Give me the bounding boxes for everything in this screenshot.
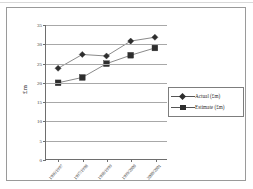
x-tick-label: 2000/2001 [146,164,162,181]
y-tick-mark [43,83,46,84]
x-tick-label: 1998/1999 [97,164,113,181]
x-tick-mark [83,159,84,162]
x-tick-mark [131,159,132,162]
data-point-marker-diamond [152,34,158,40]
y-tick-mark [43,64,46,65]
chart-page: £m 051015202530351996/19971997/19981998/… [0,0,253,189]
legend-label-estimate: Estimate (£m) [195,105,225,110]
figure-frame: £m 051015202530351996/19971997/19981998/… [6,7,246,181]
gridline [46,141,167,142]
gridline [46,44,167,45]
legend-key-square-icon [171,103,195,112]
gridline [46,102,167,103]
gridline [46,83,167,84]
y-tick-label: 10 [37,119,42,124]
data-point-marker-diamond [128,38,134,44]
legend-label-actual: Actual (£m) [195,94,220,99]
chart-legend: Actual (£m) Estimate (£m) [168,87,244,117]
legend-entry-actual: Actual (£m) [171,91,240,102]
y-tick-label: 35 [37,23,42,28]
gridline [46,64,167,65]
y-tick-label: 30 [37,42,42,47]
y-tick-mark [43,44,46,45]
legend-key-diamond-icon [171,92,195,101]
data-point-marker-diamond [79,51,85,57]
x-tick-mark [156,159,157,162]
x-tick-label: 1997/1998 [73,164,89,181]
data-point-marker-diamond [103,53,109,59]
y-tick-mark [43,25,46,26]
y-tick-label: 5 [40,138,43,143]
y-tick-label: 25 [37,61,42,66]
gridline [46,25,167,26]
y-tick-label: 0 [40,158,43,163]
y-tick-mark [43,160,46,161]
legend-entry-estimate: Estimate (£m) [171,102,240,113]
x-tick-label: 1996/1997 [49,164,65,181]
y-tick-label: 20 [37,80,42,85]
x-tick-label: 1999/2000 [122,164,138,181]
y-tick-label: 15 [37,100,42,105]
gridline [46,121,167,122]
y-axis-title: £m [22,85,29,94]
data-point-marker-square [128,52,134,58]
data-point-marker-square [152,45,158,51]
data-point-marker-square [79,75,85,81]
y-tick-mark [43,102,46,103]
y-tick-mark [43,121,46,122]
page-edge-rule [0,2,253,3]
x-tick-mark [107,159,108,162]
y-tick-mark [43,141,46,142]
plot-area: 051015202530351996/19971997/19981998/199… [45,25,167,160]
data-point-marker-diamond [55,65,61,71]
x-tick-mark [58,159,59,162]
